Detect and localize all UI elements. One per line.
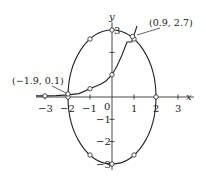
x-tick-label: 1 bbox=[131, 103, 137, 114]
y-tick-label: 3 bbox=[114, 25, 120, 36]
x-tick-label: 2 bbox=[153, 103, 159, 114]
x-tick-label: −3 bbox=[38, 103, 53, 114]
diagram-canvas: −3 −2 −1 0 1 2 3 3 −1 −2 −3 y x (−1.9, 0… bbox=[0, 0, 206, 182]
y-tick-label: −1 bbox=[96, 114, 111, 125]
x-tick-label: −1 bbox=[82, 103, 97, 114]
y-tick-label: −2 bbox=[96, 136, 111, 147]
x-tick-label: 3 bbox=[175, 103, 181, 114]
intersection-label-right: (0.9, 2.7) bbox=[149, 17, 193, 28]
annotation-leader-right bbox=[137, 28, 160, 35]
y-tick-label: −3 bbox=[96, 159, 111, 170]
intersection-label-left: (−1.9, 0.1) bbox=[12, 75, 64, 86]
ellipse-exponential-plot: −3 −2 −1 0 1 2 3 3 −1 −2 −3 y x (−1.9, 0… bbox=[0, 0, 206, 182]
y-axis bbox=[110, 22, 115, 170]
x-tick-label: −2 bbox=[60, 103, 75, 114]
x-axis-label: x bbox=[186, 91, 192, 102]
annotation-leader-left bbox=[52, 86, 66, 93]
y-axis-label: y bbox=[108, 11, 115, 22]
origin-label: 0 bbox=[104, 101, 110, 112]
